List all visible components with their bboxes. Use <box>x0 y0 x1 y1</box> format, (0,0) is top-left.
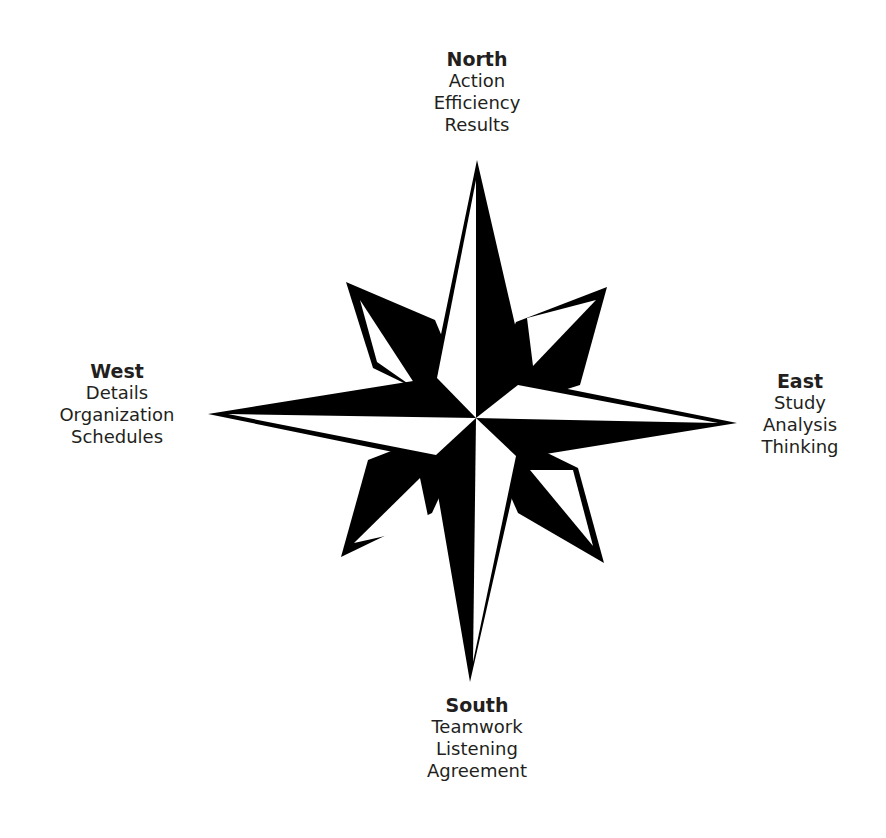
east-item: Study <box>738 392 862 414</box>
west-arm-light <box>228 414 476 455</box>
south-item: Listening <box>400 738 554 760</box>
east-item: Analysis <box>738 414 862 436</box>
west-title: West <box>40 360 194 382</box>
north-item: Results <box>400 114 554 136</box>
north-title: North <box>400 48 554 70</box>
east-title: East <box>738 370 862 392</box>
south-arm-light <box>473 418 516 662</box>
south-label: South Teamwork Listening Agreement <box>400 694 554 782</box>
west-label: West Details Organization Schedules <box>40 360 194 448</box>
west-item: Details <box>40 382 194 404</box>
west-item: Organization <box>40 404 194 426</box>
west-item: Schedules <box>40 426 194 448</box>
east-label: East Study Analysis Thinking <box>738 370 862 458</box>
east-item: Thinking <box>738 436 862 458</box>
north-arm-light <box>437 180 476 418</box>
north-item: Efficiency <box>400 92 554 114</box>
south-title: South <box>400 694 554 716</box>
north-item: Action <box>400 70 554 92</box>
main-points <box>208 160 737 682</box>
north-label: North Action Efficiency Results <box>400 48 554 136</box>
south-item: Agreement <box>400 760 554 782</box>
east-arm-light <box>476 385 718 423</box>
south-item: Teamwork <box>400 716 554 738</box>
